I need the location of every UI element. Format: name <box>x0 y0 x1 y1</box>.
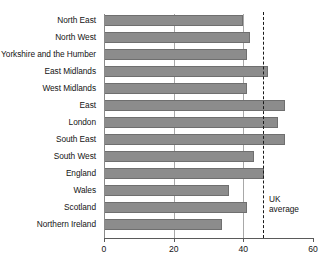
x-tick-label-40: 40 <box>239 244 249 254</box>
category-label: East <box>80 101 96 110</box>
bar-north-east <box>104 15 243 26</box>
x-tick-label-60: 60 <box>308 244 318 254</box>
x-tick-label-20: 20 <box>169 244 179 254</box>
bar-south-west <box>104 151 254 162</box>
uk-average-label-line2: average <box>269 204 299 214</box>
category-label: Wales <box>74 186 97 195</box>
uk-average-label-line1: UK <box>269 194 281 204</box>
category-label: Northern Ireland <box>37 220 96 229</box>
category-label: England <box>66 169 96 178</box>
category-label: North West <box>55 33 96 42</box>
bar-yorkshire-and-the-humber <box>104 49 247 60</box>
plot-area: UK average <box>104 14 313 238</box>
bar-northern-ireland <box>104 219 222 230</box>
bar-east <box>104 100 285 111</box>
x-tick-mark-40 <box>243 238 244 242</box>
bar-wales <box>104 185 229 196</box>
category-label: West Midlands <box>42 84 96 93</box>
x-tick-mark-0 <box>104 238 105 242</box>
category-label: Yorkshire and the Humber <box>1 50 96 59</box>
bar-north-west <box>104 32 250 43</box>
bar-london <box>104 117 278 128</box>
y-axis-line <box>104 14 105 238</box>
x-tick-mark-20 <box>174 238 175 242</box>
bar-west-midlands <box>104 83 247 94</box>
bar-england <box>104 168 264 179</box>
x-axis-line <box>104 238 314 239</box>
category-label: South West <box>54 152 96 161</box>
uk-average-line <box>263 12 264 238</box>
x-tick-label-0: 0 <box>102 244 107 254</box>
category-label: London <box>69 118 96 127</box>
category-label: South East <box>56 135 96 144</box>
category-label: Scotland <box>64 203 96 212</box>
bar-south-east <box>104 134 285 145</box>
category-axis-labels: North East North West Yorkshire and the … <box>0 0 100 238</box>
bar-chart: North East North West Yorkshire and the … <box>0 0 329 260</box>
bar-scotland <box>104 202 247 213</box>
category-label: North East <box>57 16 96 25</box>
category-label: East Midlands <box>45 67 96 76</box>
x-tick-mark-60 <box>313 238 314 242</box>
bar-east-midlands <box>104 66 268 77</box>
